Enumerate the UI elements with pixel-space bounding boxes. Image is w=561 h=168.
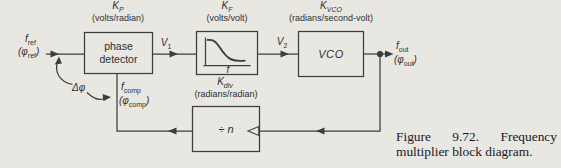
phase-detector-gain-label: KP [112,1,123,11]
close-paren: ) [146,95,149,106]
gain-subscript: VCO [327,6,342,13]
arrowhead-feedback-right [316,127,325,134]
arrowhead-v1 [170,50,179,57]
gain-subscript: P [119,6,124,13]
phase-detector-units-label: (volts/radian) [92,14,144,23]
filter-units-label: (volts/volt) [206,14,247,23]
phase-error-arc-right [87,93,104,100]
arrowhead-phase-error-right [103,94,111,101]
gain-subscript: F [228,6,232,13]
phase-error-label: Δφ [72,83,85,93]
signal-symbol: (φ [18,46,28,57]
wire-feedback-right [260,54,381,131]
vco-gain-label: KVCO [320,1,342,11]
signal-subscript: ref [28,52,36,59]
comparison-frequency-label: fcomp [121,82,141,92]
input-phase-label: (φref) [18,47,39,57]
signal-subscript: out [404,60,414,67]
gain-subscript: div [224,82,233,89]
signal-subscript: comp [124,87,141,94]
input-frequency-label: fref [25,34,36,44]
arrowhead-v2 [281,50,290,57]
divider-units-label: (radians/radian) [194,90,257,99]
v2-label: V2 [277,37,288,47]
scanned-figure-page: KP (volts/radian) KF (volts/volt) KVCO (… [0,0,561,168]
close-paren: ) [36,46,39,57]
filter-response-curve [207,40,246,61]
arrowhead-output [385,50,394,57]
signal-symbol: V [277,36,284,47]
output-junction-dot [377,51,383,57]
filter-gain-label: KF [222,1,233,11]
divider-label: ÷ n [192,123,260,135]
comparison-phase-label: (φcomp) [119,96,149,106]
signal-symbol: (φ [119,95,129,106]
output-phase-label: (φout) [394,55,417,65]
divider-gain-label: Kdiv [217,77,233,87]
divide-sign: ÷ [218,123,224,135]
signal-subscript: 1 [167,43,171,50]
output-frequency-label: fout [396,41,409,51]
arrowhead-input [51,50,60,57]
phase-detector-label-line2: detector [84,53,153,66]
gain-symbol: K [320,0,327,11]
signal-symbol: V [161,37,168,48]
signal-subscript: out [399,46,409,53]
figure-caption: Figure 9.72. Frequency multiplier block … [396,130,557,160]
arrowhead-feedback-left [168,127,177,134]
gain-symbol: K [217,76,224,87]
signal-subscript: 2 [283,42,287,49]
delta-phi-symbol: Δφ [72,82,85,93]
divide-ratio-symbol: n [227,123,233,135]
vco-label: VCO [298,48,364,60]
signal-symbol: (φ [394,54,404,65]
arrowhead-phase-error-up [55,57,62,65]
signal-subscript: ref [28,39,36,46]
v1-label: V1 [161,38,172,48]
close-paren: ) [414,54,417,65]
gain-symbol: K [112,0,119,11]
vco-units-label: (radians/second-volt) [289,14,373,23]
phase-detector-label: phase detector [84,40,153,65]
signal-subscript: comp [129,101,146,108]
gain-symbol: K [222,0,229,11]
filter-frequency-axis-label: f [222,64,234,75]
phase-detector-label-line1: phase [84,40,153,53]
